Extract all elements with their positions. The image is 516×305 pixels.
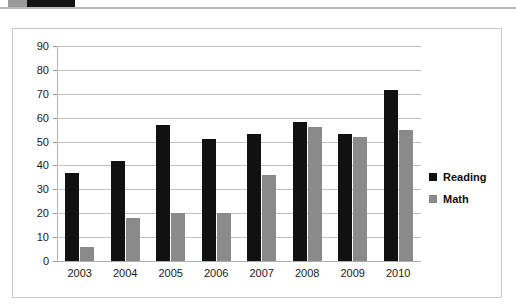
bar-math-2004 — [126, 218, 140, 261]
gridline — [57, 46, 421, 47]
y-axis-tick-mark — [53, 118, 57, 119]
bar-math-2003 — [80, 247, 94, 261]
plot-area: 0102030405060708090200320042005200620072… — [13, 29, 503, 299]
legend-label-math: Math — [443, 193, 469, 205]
y-axis-tick-label: 20 — [13, 208, 49, 219]
x-axis-tick-label-2004: 2004 — [103, 267, 149, 279]
y-axis-tick-mark — [53, 213, 57, 214]
bar-reading-2010 — [384, 90, 398, 261]
y-axis-tick-mark — [53, 70, 57, 71]
legend-item-reading: Reading — [429, 166, 501, 188]
y-axis-tick-mark — [53, 237, 57, 238]
y-axis-tick-mark — [53, 94, 57, 95]
bar-reading-2003 — [65, 173, 79, 261]
y-axis-tick-label: 10 — [13, 232, 49, 243]
y-axis-tick-mark — [53, 46, 57, 47]
x-axis-tick-label-2007: 2007 — [239, 267, 285, 279]
chart-legend: Reading Math — [429, 166, 501, 210]
legend-item-math: Math — [429, 188, 501, 210]
toolbar-segment-dark-icon — [27, 0, 75, 7]
y-axis-tick-mark — [53, 142, 57, 143]
y-axis-tick-mark — [53, 189, 57, 190]
legend-swatch-reading-icon — [429, 173, 437, 181]
bar-reading-2007 — [247, 134, 261, 261]
bar-math-2008 — [308, 127, 322, 261]
toolbar-segment-grey-icon — [8, 0, 27, 7]
bar-reading-2008 — [293, 122, 307, 261]
gridline — [57, 118, 421, 119]
y-axis-tick-label: 50 — [13, 137, 49, 148]
bar-reading-2005 — [156, 125, 170, 261]
bar-reading-2006 — [202, 139, 216, 261]
bar-math-2005 — [171, 213, 185, 261]
bar-math-2007 — [262, 175, 276, 261]
gridline — [57, 94, 421, 95]
bar-reading-2004 — [111, 161, 125, 261]
y-axis-tick-mark — [53, 261, 57, 262]
y-axis-tick-label: 30 — [13, 184, 49, 195]
y-axis-tick-mark — [53, 165, 57, 166]
bar-math-2006 — [217, 213, 231, 261]
toolbar-divider — [0, 7, 516, 9]
bar-reading-2009 — [338, 134, 352, 261]
cropped-toolbar-strip — [0, 0, 516, 9]
x-axis-tick-label-2009: 2009 — [330, 267, 376, 279]
gridline — [57, 70, 421, 71]
legend-label-reading: Reading — [443, 171, 486, 183]
y-axis-tick-label: 0 — [13, 256, 49, 267]
y-axis-line — [57, 46, 58, 262]
bar-math-2009 — [353, 137, 367, 261]
chart-container: 0102030405060708090200320042005200620072… — [12, 28, 502, 298]
x-axis-tick-label-2008: 2008 — [285, 267, 331, 279]
y-axis-tick-label: 80 — [13, 65, 49, 76]
y-axis-tick-label: 60 — [13, 113, 49, 124]
y-axis-tick-label: 40 — [13, 160, 49, 171]
gridline — [57, 261, 421, 262]
y-axis-tick-label: 70 — [13, 89, 49, 100]
bar-math-2010 — [399, 130, 413, 261]
x-axis-tick-label-2010: 2010 — [376, 267, 422, 279]
x-axis-tick-label-2003: 2003 — [57, 267, 103, 279]
y-axis-tick-label: 90 — [13, 41, 49, 52]
x-axis-tick-label-2006: 2006 — [194, 267, 240, 279]
legend-swatch-math-icon — [429, 195, 437, 203]
x-axis-tick-label-2005: 2005 — [148, 267, 194, 279]
